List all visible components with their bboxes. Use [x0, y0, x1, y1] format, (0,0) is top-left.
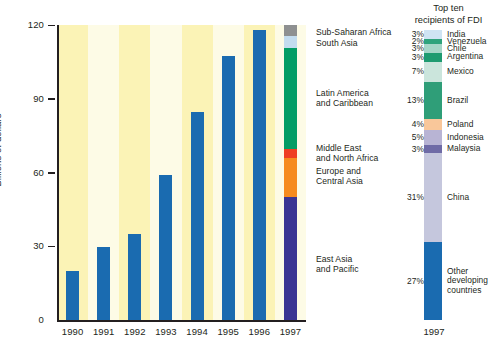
y-tick-label-60: 60	[4, 168, 44, 177]
y-tick-label-0: 0	[4, 315, 44, 324]
country-segment-8	[424, 145, 442, 154]
y-tick-mark	[48, 25, 55, 27]
country-segment-5	[424, 82, 442, 119]
region-segment	[284, 149, 297, 158]
country-name-4: Mexico	[447, 67, 474, 77]
bar-1990	[66, 271, 79, 320]
bar-1994	[191, 112, 204, 320]
legend-label-2: Latin America and Caribbean	[316, 88, 373, 108]
y-tick-mark	[48, 172, 55, 174]
country-name-8: Malaysia	[447, 144, 480, 154]
x-tick-1997: 1997	[270, 326, 310, 337]
country-percent-5: 13%	[398, 96, 424, 105]
country-percent-10: 27%	[398, 277, 424, 286]
country-percent-7: 5%	[398, 133, 424, 142]
country-segment-9	[424, 153, 442, 242]
bar-1992	[128, 234, 141, 320]
bar-1996	[253, 30, 266, 320]
chart-figure: 0306090120 Billions of dollars Sub-Sahar…	[0, 0, 501, 347]
region-segment	[284, 36, 297, 48]
region-segment	[284, 25, 297, 36]
country-segment-6	[424, 119, 442, 130]
bar-1991	[97, 247, 110, 320]
top-ten-stacked-bar	[424, 30, 442, 320]
country-name-5: Brazil	[447, 96, 468, 106]
right-panel-title: Top ten recipients of FDI	[398, 3, 499, 26]
country-segment-7	[424, 130, 442, 144]
country-name-9: China	[447, 193, 469, 203]
legend-label-5: East Asia and Pacific	[316, 254, 359, 274]
axis-left-spine	[57, 25, 59, 321]
axis-baseline	[57, 320, 306, 322]
right-panel-year: 1997	[404, 326, 464, 337]
country-percent-4: 7%	[398, 67, 424, 76]
y-tick-mark	[48, 98, 55, 100]
region-segment	[284, 197, 297, 320]
bar-1993	[159, 175, 172, 320]
legend-label-4: Europe and Central Asia	[316, 166, 363, 186]
country-percent-8: 3%	[398, 145, 424, 154]
bar-1995	[222, 56, 235, 320]
legend-label-3: Middle East and North Africa	[316, 143, 378, 163]
country-segment-10	[424, 242, 442, 320]
legend-label-0: Sub-Saharan Africa	[316, 27, 391, 37]
country-percent-9: 31%	[398, 193, 424, 202]
country-segment-4	[424, 62, 442, 82]
region-segment	[284, 48, 297, 149]
country-segment-2	[424, 44, 442, 53]
country-name-10: Other developing countries	[447, 267, 488, 296]
y-tick-label-90: 90	[4, 94, 44, 103]
country-segment-0	[424, 30, 442, 39]
country-name-7: Indonesia	[447, 133, 484, 143]
country-percent-3: 3%	[398, 53, 424, 62]
y-axis-label: Billions of dollars	[0, 113, 3, 186]
y-tick-mark	[48, 246, 55, 248]
plot-area	[57, 25, 306, 320]
legend-label-1: South Asia	[316, 38, 358, 48]
country-name-3: Argentina	[447, 52, 483, 62]
y-tick-label-120: 120	[4, 20, 44, 29]
region-segment	[284, 158, 297, 197]
bar-1997-stacked	[284, 25, 297, 320]
country-name-6: Poland	[447, 120, 473, 130]
y-tick-label-30: 30	[4, 241, 44, 250]
country-percent-6: 4%	[398, 120, 424, 129]
country-segment-3	[424, 53, 442, 62]
